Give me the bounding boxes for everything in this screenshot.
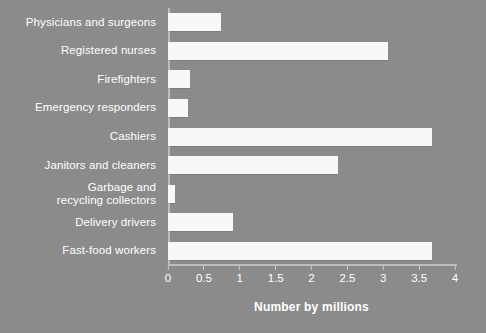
category-label: Registered nurses bbox=[61, 44, 156, 57]
category-row: Physicians and surgeons bbox=[0, 8, 163, 37]
tick-mark bbox=[383, 265, 384, 270]
bar-row bbox=[168, 94, 455, 123]
category-row: Emergency responders bbox=[0, 94, 163, 123]
x-tick: 4 bbox=[452, 265, 458, 285]
category-row: Fast-food workers bbox=[0, 237, 163, 266]
x-axis-ticks: 0 0.5 1 1.5 2 2.5 3 3.5 bbox=[168, 265, 455, 289]
bar-row bbox=[168, 37, 455, 66]
category-label: Cashiers bbox=[110, 130, 156, 143]
category-axis-labels: Physicians and surgeons Registered nurse… bbox=[0, 8, 163, 265]
bar-row bbox=[168, 179, 455, 208]
x-tick: 0 bbox=[165, 265, 171, 285]
x-axis-title: Number by millions bbox=[168, 300, 455, 314]
tick-mark bbox=[419, 265, 420, 270]
tick-label: 3.5 bbox=[411, 271, 427, 285]
bar bbox=[168, 213, 233, 231]
bar-row bbox=[168, 208, 455, 237]
category-label: Fast-food workers bbox=[62, 244, 156, 257]
category-label: Firefighters bbox=[97, 73, 156, 86]
bar-row bbox=[168, 151, 455, 180]
tick-label: 1.5 bbox=[268, 271, 284, 285]
x-tick: 0.5 bbox=[196, 265, 212, 285]
category-label: Garbage and recycling collectors bbox=[57, 181, 156, 207]
tick-mark bbox=[168, 265, 169, 270]
x-tick: 3 bbox=[380, 265, 386, 285]
bar-row bbox=[168, 237, 455, 266]
category-row: Firefighters bbox=[0, 65, 163, 94]
tick-label: 4 bbox=[452, 271, 458, 285]
tick-label: 0 bbox=[165, 271, 171, 285]
x-tick: 2.5 bbox=[339, 265, 355, 285]
x-tick: 2 bbox=[308, 265, 314, 285]
category-label: Delivery drivers bbox=[75, 216, 156, 229]
x-tick: 1 bbox=[237, 265, 243, 285]
tick-mark bbox=[455, 265, 456, 270]
category-row: Delivery drivers bbox=[0, 208, 163, 237]
bar bbox=[168, 42, 388, 60]
bar-rows bbox=[168, 8, 455, 265]
x-tick: 3.5 bbox=[411, 265, 427, 285]
tick-label: 3 bbox=[380, 271, 386, 285]
tick-label: 2 bbox=[308, 271, 314, 285]
category-row: Garbage and recycling collectors bbox=[0, 179, 163, 208]
bar-row bbox=[168, 122, 455, 151]
category-row: Janitors and cleaners bbox=[0, 151, 163, 180]
tick-mark bbox=[203, 265, 204, 270]
plot-area bbox=[168, 8, 455, 265]
bar bbox=[168, 99, 188, 117]
tick-label: 1 bbox=[237, 271, 243, 285]
tick-mark bbox=[347, 265, 348, 270]
tick-mark bbox=[239, 265, 240, 270]
tick-mark bbox=[275, 265, 276, 270]
bar bbox=[168, 128, 432, 146]
category-label: Emergency responders bbox=[35, 101, 156, 114]
tick-label: 2.5 bbox=[339, 271, 355, 285]
x-tick: 1.5 bbox=[268, 265, 284, 285]
bar-chart: Physicians and surgeons Registered nurse… bbox=[0, 0, 486, 333]
category-row: Registered nurses bbox=[0, 37, 163, 66]
category-label: Janitors and cleaners bbox=[45, 159, 156, 172]
category-label: Physicians and surgeons bbox=[26, 16, 156, 29]
bar-row bbox=[168, 65, 455, 94]
bar bbox=[168, 156, 338, 174]
bar bbox=[168, 70, 190, 88]
tick-mark bbox=[311, 265, 312, 270]
tick-label: 0.5 bbox=[196, 271, 212, 285]
bar-row bbox=[168, 8, 455, 37]
category-row: Cashiers bbox=[0, 122, 163, 151]
bar bbox=[168, 185, 175, 203]
bar bbox=[168, 13, 221, 31]
bar bbox=[168, 242, 432, 260]
